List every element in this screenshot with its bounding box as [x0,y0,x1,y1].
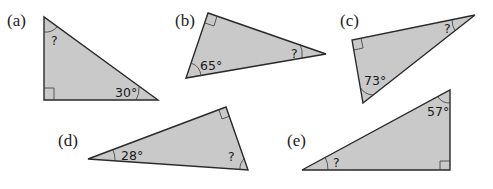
triangle-d-known-angle: 28° [121,148,143,163]
triangle-e-label: (e) [287,131,306,150]
triangle-e-unknown: ? [333,155,340,170]
triangle-d-unknown: ? [228,149,235,164]
triangle-c-known-angle: 73° [364,73,386,88]
triangle-a-label: (a) [7,11,26,30]
triangle-d: (d) 28° ? [58,107,248,170]
triangle-b-label: (b) [175,11,195,30]
triangle-c: (c) 73° ? [340,11,475,103]
triangle-c-label: (c) [340,11,359,30]
triangle-a-shape [44,17,158,100]
triangle-a-known-angle: 30° [115,85,137,100]
triangle-e-shape [302,90,450,170]
triangle-d-shape [88,107,248,170]
triangle-a-unknown: ? [51,33,58,48]
triangle-b: (b) 65° ? [175,11,326,78]
triangle-c-shape [352,15,475,103]
triangle-diagram: (a) ? 30° (b) 65° ? (c) 73° ? (d) 28° ? [0,0,493,189]
triangle-a: (a) ? 30° [7,11,158,100]
triangle-c-unknown: ? [444,21,451,36]
triangle-b-unknown: ? [291,46,298,61]
triangle-e: (e) 57° ? [287,90,450,170]
triangle-d-label: (d) [58,131,78,150]
triangle-e-known-angle: 57° [427,104,449,119]
triangle-b-known-angle: 65° [200,58,222,73]
